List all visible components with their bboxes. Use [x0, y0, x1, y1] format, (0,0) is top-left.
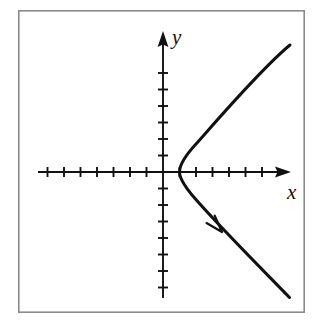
x-axis-label: x [286, 180, 297, 204]
y-axis-label: y [170, 25, 182, 49]
parabola-plot: y x [0, 0, 317, 323]
figure-root: y x [0, 0, 317, 323]
